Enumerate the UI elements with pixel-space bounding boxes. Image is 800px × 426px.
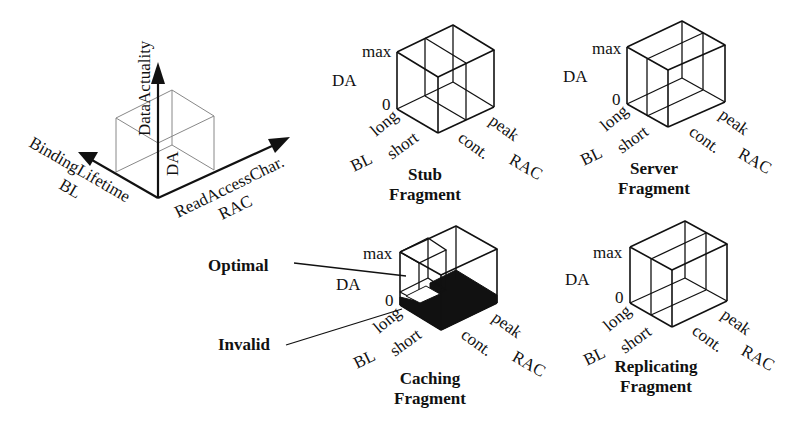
bl-long-label: long	[366, 106, 402, 140]
rac-cont-label: cont.	[686, 122, 724, 157]
da-label: DA	[336, 275, 361, 294]
rac-label: RAC	[735, 144, 775, 178]
arrow-right-icon	[268, 137, 290, 153]
rac-cont-label: cont.	[455, 128, 493, 163]
bl-short-label: short	[383, 128, 422, 164]
axes-legend: DataActuality DA BindingLifetime BL Read…	[26, 40, 290, 223]
rac-peak-label: peak	[716, 105, 754, 140]
bl-label: BL	[347, 149, 375, 176]
fragment-title-line1: Stub	[408, 165, 442, 184]
invalid-annotation: Invalid	[218, 335, 271, 354]
caching-fragment: max DA 0 long short BL peak cont. RAC Ca…	[208, 226, 549, 408]
bl-short-label: short	[386, 325, 425, 361]
fragment-title-line1: Replicating	[614, 357, 698, 376]
stub-fragment: max DA 0 long short BL peak cont. RAC St…	[332, 25, 546, 204]
rac-label: RAC	[506, 150, 546, 184]
da-axis-label: DataActuality	[135, 40, 154, 136]
replicating-fragment: max DA 0 long short BL peak cont. RAC Re…	[565, 221, 778, 396]
rac-peak-label: peak	[489, 308, 527, 343]
rac-peak-label: peak	[718, 305, 756, 340]
server-fragment: max DA 0 long short BL peak cont. RAC Se…	[563, 21, 775, 198]
optimal-region	[400, 238, 446, 303]
rac-label: RAC	[738, 341, 778, 375]
da-max-label: max	[593, 243, 623, 262]
da-axis-abbrev: DA	[163, 151, 182, 176]
bl-axis-label: BindingLifetime	[26, 133, 134, 206]
rac-peak-label: peak	[486, 111, 524, 146]
da-label: DA	[565, 270, 590, 289]
da-max-label: max	[362, 42, 392, 61]
fragment-title-line1: Caching	[400, 369, 461, 388]
bl-long-label: long	[596, 101, 632, 135]
da-label: DA	[332, 71, 357, 90]
bl-short-label: short	[616, 322, 655, 358]
bl-label: BL	[350, 346, 378, 373]
fragment-title-line2: Fragment	[620, 377, 692, 396]
bl-long-label: long	[599, 301, 635, 335]
rac-cont-label: cont.	[458, 325, 496, 360]
rac-label: RAC	[509, 347, 549, 381]
bl-label: BL	[580, 343, 608, 370]
da-label: DA	[563, 67, 588, 86]
da-max-label: max	[592, 39, 622, 58]
fragment-classification-diagram: DataActuality DA BindingLifetime BL Read…	[0, 0, 800, 426]
optimal-annotation: Optimal	[208, 256, 269, 275]
bl-short-label: short	[613, 122, 652, 158]
fragment-title-line2: Fragment	[389, 185, 461, 204]
bl-long-label: long	[369, 303, 405, 337]
da-max-label: max	[363, 244, 393, 263]
rac-cont-label: cont.	[689, 321, 727, 356]
bl-label: BL	[577, 143, 605, 170]
fragment-title-line1: Server	[630, 159, 679, 178]
fragment-title-line2: Fragment	[394, 389, 466, 408]
fragment-title-line2: Fragment	[618, 179, 690, 198]
